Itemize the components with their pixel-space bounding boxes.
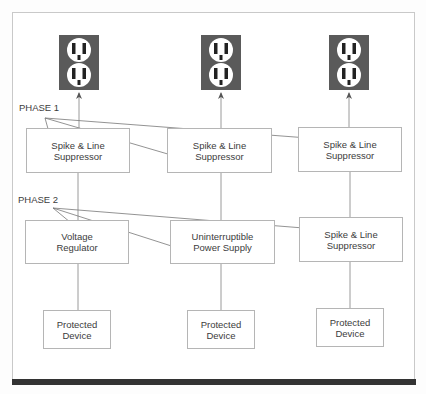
protected-device-box: ProtectedDevice	[316, 308, 384, 347]
box-label: Suppressor	[193, 151, 246, 162]
protected-device-box: ProtectedDevice	[187, 310, 255, 349]
protected-device-box: ProtectedDevice	[43, 310, 111, 349]
box-label: Spike & Line	[324, 229, 377, 240]
bottom-bar	[12, 379, 416, 385]
box-label: Suppressor	[324, 240, 377, 251]
box-label: Device	[330, 328, 371, 339]
box-label: Suppressor	[51, 151, 104, 162]
box-label: Protected	[330, 317, 371, 328]
box-label: Spike & Line	[323, 139, 376, 150]
spike-line-suppressor-box: Spike & LineSuppressor	[26, 128, 130, 173]
electrical-outlet-icon	[201, 35, 241, 90]
box-label: Protected	[201, 319, 242, 330]
box-label: Spike & Line	[193, 140, 246, 151]
box-label: Spike & Line	[51, 140, 104, 151]
box-label: Device	[57, 330, 98, 341]
box-label: Device	[201, 330, 242, 341]
spike-line-suppressor-box: Spike & LineSuppressor	[298, 127, 402, 172]
phase-1-label: PHASE 1	[19, 102, 59, 113]
spike-line-suppressor-box: Spike & LineSuppressor	[299, 217, 403, 262]
box-label: Suppressor	[323, 150, 376, 161]
box-label: Voltage	[56, 231, 97, 242]
electrical-outlet-icon	[59, 35, 99, 90]
ups-box: UninterruptiblePower Supply	[170, 220, 275, 264]
box-label: Power Supply	[192, 242, 254, 253]
phase-2-label: PHASE 2	[18, 194, 58, 205]
voltage-regulator-box: VoltageRegulator	[25, 220, 129, 264]
electrical-outlet-icon	[329, 35, 369, 90]
box-label: Protected	[57, 319, 98, 330]
box-label: Regulator	[56, 242, 97, 253]
spike-line-suppressor-box: Spike & LineSuppressor	[167, 128, 272, 173]
box-label: Uninterruptible	[192, 231, 254, 242]
